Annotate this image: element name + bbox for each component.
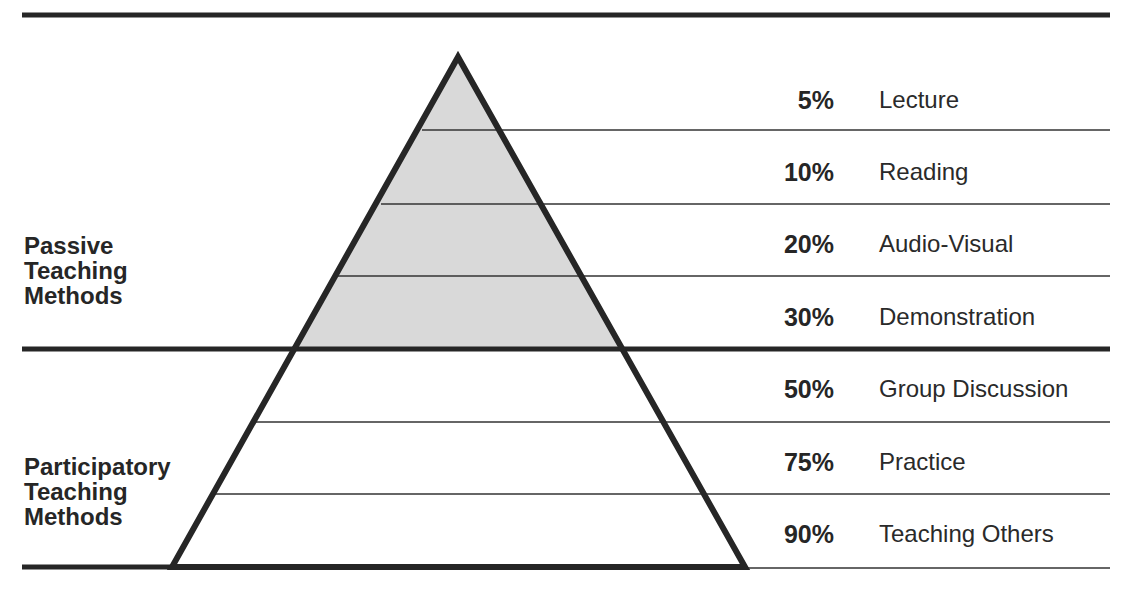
level-percent: 75%	[784, 448, 834, 477]
level-percent: 5%	[798, 86, 834, 115]
level-row-reading: 10% Reading	[740, 158, 1120, 230]
level-percent: 50%	[784, 375, 834, 404]
level-row-lecture: 5% Lecture	[740, 86, 1120, 158]
level-method: Reading	[879, 158, 968, 186]
level-percent: 30%	[784, 303, 834, 332]
level-percent: 10%	[784, 158, 834, 187]
level-method: Group Discussion	[879, 375, 1068, 403]
participatory-group-label: Participatory Teaching Methods	[24, 454, 171, 529]
level-row-audio-visual: 20% Audio-Visual	[740, 230, 1120, 302]
passive-shaded-region	[295, 57, 621, 349]
level-method: Lecture	[879, 86, 959, 114]
level-row-teaching-others: 90% Teaching Others	[740, 520, 1120, 591]
level-method: Practice	[879, 448, 966, 476]
level-row-group-discussion: 50% Group Discussion	[740, 375, 1120, 447]
passive-group-label: Passive Teaching Methods	[24, 233, 128, 308]
level-percent: 20%	[784, 230, 834, 259]
level-row-practice: 75% Practice	[740, 448, 1120, 520]
level-method: Audio-Visual	[879, 230, 1013, 258]
level-row-demonstration: 30% Demonstration	[740, 303, 1120, 375]
level-method: Teaching Others	[879, 520, 1054, 548]
level-method: Demonstration	[879, 303, 1035, 331]
level-percent: 90%	[784, 520, 834, 549]
